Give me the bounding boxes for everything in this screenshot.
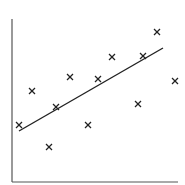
axes <box>12 19 178 182</box>
x-marker-icon <box>16 122 22 128</box>
x-marker-icon <box>154 29 160 35</box>
x-marker-icon <box>67 74 73 80</box>
x-marker-icon <box>85 122 91 128</box>
x-marker-icon <box>29 88 35 94</box>
x-marker-icon <box>95 76 101 82</box>
x-marker-icon <box>109 54 115 60</box>
scatter-plot <box>0 0 185 185</box>
data-points <box>16 29 178 150</box>
x-marker-icon <box>140 53 146 59</box>
x-marker-icon <box>172 78 178 84</box>
x-marker-icon <box>135 101 141 107</box>
trend-line <box>19 48 163 131</box>
x-marker-icon <box>46 144 52 150</box>
regression-line <box>19 48 163 131</box>
